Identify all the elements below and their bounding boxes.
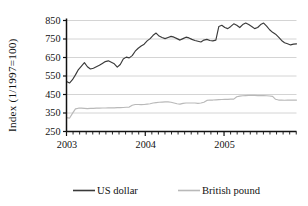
y-tick-label: 750 bbox=[45, 33, 60, 44]
y-tick-label: 250 bbox=[45, 126, 60, 137]
x-tick-label: 2005 bbox=[214, 139, 234, 150]
chart-figure: 250350450550650750850 200320042005 Index… bbox=[0, 0, 308, 206]
x-tick-label: 2004 bbox=[136, 139, 156, 150]
line-chart: 250350450550650750850 200320042005 Index… bbox=[0, 0, 308, 206]
x-tick-label: 2003 bbox=[57, 139, 77, 150]
y-tick-label: 850 bbox=[45, 15, 60, 26]
y-axis-title: Index (1/1997=100) bbox=[6, 38, 19, 132]
y-tick-label: 350 bbox=[45, 107, 60, 118]
y-tick-label: 450 bbox=[45, 89, 60, 100]
legend-label-0: US dollar bbox=[97, 185, 138, 196]
y-tick-label: 550 bbox=[45, 70, 60, 81]
y-tick-label: 650 bbox=[45, 52, 60, 63]
legend-label-1: British pound bbox=[202, 185, 261, 196]
